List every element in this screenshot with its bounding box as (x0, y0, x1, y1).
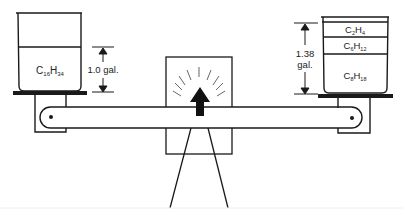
left-compound-label: C16H34 (36, 65, 64, 77)
right-layer-2-label: C6H12 (344, 40, 367, 52)
left-beaker (16, 13, 82, 91)
right-layer-3-label: C8H18 (344, 70, 367, 82)
right-layer-1-label: C2H4 (345, 24, 365, 36)
right-volume-label-line1: 1.38 (296, 48, 315, 59)
left-pan-platform (13, 91, 87, 95)
balance-scale-diagram: C16H34 1.0 gal. C2H4 (0, 0, 403, 218)
right-pan-platform (318, 94, 393, 98)
right-pivot-dot (350, 116, 354, 120)
left-pivot-dot (49, 115, 53, 119)
right-volume-label-line2: gal. (297, 59, 312, 70)
left-volume-label: 1.0 gal. (87, 64, 118, 75)
